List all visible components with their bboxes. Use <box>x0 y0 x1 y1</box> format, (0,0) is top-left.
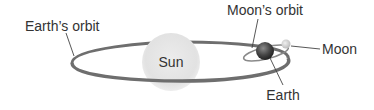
earth <box>256 42 274 60</box>
moon-orbit-label: Moon’s orbit <box>227 2 303 18</box>
earth-orbit-leader <box>66 33 74 56</box>
moon-orbit-leader <box>252 19 258 48</box>
moon <box>282 40 291 49</box>
moon-label: Moon <box>322 41 357 57</box>
sun-earth-moon-diagram: Earth’s orbit Sun Moon’s orbit Moon Eart… <box>0 0 374 110</box>
earth-orbit-label: Earth’s orbit <box>25 18 100 34</box>
moon-leader <box>291 46 320 49</box>
earth-label: Earth <box>266 87 299 103</box>
sun-label: Sun <box>159 54 184 70</box>
